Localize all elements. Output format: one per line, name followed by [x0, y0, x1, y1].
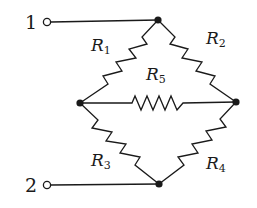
label-r1: R1	[91, 37, 111, 56]
label-r2: R2	[206, 30, 226, 49]
label-r4-symbol: R	[206, 153, 219, 173]
label-r5-symbol: R	[146, 64, 159, 84]
terminal-2-label: 2	[25, 176, 37, 195]
label-r2-subscript: 2	[219, 37, 226, 50]
terminal-2-icon	[43, 181, 50, 188]
resistor-r5	[80, 96, 236, 110]
label-r5-subscript: 5	[159, 73, 166, 86]
node-right	[232, 98, 239, 105]
label-r2-symbol: R	[206, 28, 219, 48]
wire-terminal-1	[51, 20, 158, 22]
node-left	[76, 99, 83, 106]
terminal-1-label: 1	[25, 13, 37, 32]
label-r1-symbol: R	[91, 35, 104, 55]
resistor-r1	[80, 20, 158, 103]
label-r3: R3	[91, 152, 111, 171]
node-top	[154, 16, 161, 23]
label-r5: R5	[146, 66, 166, 85]
label-r4: R4	[206, 155, 226, 174]
resistor-r3	[80, 103, 159, 184]
label-r1-subscript: 1	[104, 44, 111, 57]
wire-terminal-2	[51, 184, 159, 185]
label-r4-subscript: 4	[219, 162, 226, 175]
node-bottom	[155, 180, 162, 187]
label-r3-subscript: 3	[104, 159, 111, 172]
terminal-1-icon	[43, 18, 50, 25]
circuit-diagram: 1 2 R1 R2 R5 R3 R4	[0, 0, 257, 208]
label-r3-symbol: R	[91, 150, 104, 170]
